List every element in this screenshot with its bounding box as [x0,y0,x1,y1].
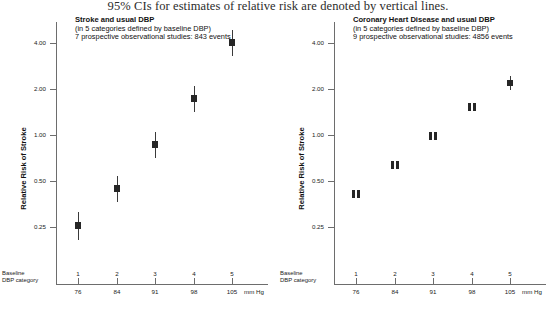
x-value-label: 98 [460,288,484,295]
data-point [504,76,516,92]
chart-panel-chd: Coronary Heart Disease and usual DBP (in… [278,14,556,314]
x-cat-label: 3 [421,270,445,277]
plot-subtitle-left-2: 7 prospective observational studies: 843… [75,33,275,42]
y-axis-label-left: Relative Risk of Stroke [19,94,28,244]
y-tick-label: 2.00 [8,85,46,92]
x-axis-units-right: mm Hg [522,288,542,295]
figure-caption: 95% CIs for estimates of relative risk a… [0,0,556,14]
x-cat-label: 4 [460,270,484,277]
baseline-note-right: Baseline DBP category [280,270,332,284]
plot-title-left: Stroke and usual DBP (in 5 categories de… [75,16,275,42]
y-axis-line-left [56,22,57,284]
x-cat-label: 2 [383,270,407,277]
x-value-label: 84 [383,288,407,295]
y-axis-label-right: Relative Risk of Stroke [297,94,306,244]
data-point [72,210,84,242]
y-axis-line-right [334,22,335,284]
x-value-label: 84 [105,288,129,295]
data-point [389,157,401,173]
baseline-note-left: Baseline DBP category [2,270,54,284]
baseline-note-line2: DBP category [280,277,316,283]
x-cat-label: 2 [105,270,129,277]
x-cat-label: 4 [182,270,206,277]
x-cat-label: 3 [143,270,167,277]
x-cat-label: 5 [220,270,244,277]
data-point [466,99,478,115]
chart-panel-stroke: Stroke and usual DBP (in 5 categories de… [0,14,278,314]
data-point [427,128,439,144]
data-point [111,174,123,204]
baseline-note-line2: DBP category [2,277,38,283]
x-axis-line-left [56,284,268,285]
plot-title-right: Coronary Heart Disease and usual DBP (in… [353,16,553,42]
x-value-label: 105 [498,288,522,295]
x-value-label: 91 [143,288,167,295]
x-axis-line-right [334,284,546,285]
x-value-label: 76 [66,288,90,295]
x-value-label: 91 [421,288,445,295]
x-value-label: 105 [220,288,244,295]
baseline-note-line1: Baseline [2,270,25,276]
x-cat-label: 1 [66,270,90,277]
x-axis-units-left: mm Hg [244,288,264,295]
y-tick-label: 4.00 [286,39,324,46]
y-tick-label: 2.00 [286,85,324,92]
x-value-label: 76 [344,288,368,295]
baseline-note-line1: Baseline [280,270,303,276]
x-cat-label: 5 [498,270,522,277]
data-point [149,130,161,160]
x-value-label: 98 [182,288,206,295]
plot-subtitle-right-2: 9 prospective observational studies: 485… [353,33,553,42]
data-point [350,186,362,202]
x-cat-label: 1 [344,270,368,277]
data-point [226,28,238,58]
data-point [188,84,200,114]
y-tick-label: 4.00 [8,39,46,46]
